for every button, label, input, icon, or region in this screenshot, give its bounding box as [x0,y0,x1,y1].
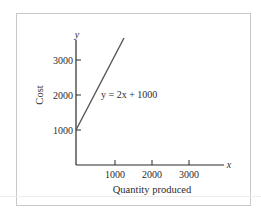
equation-annotation: y = 2x + 1000 [101,89,157,100]
y-tick-label-2000: 2000 [53,90,73,101]
chart-canvas: 1000 2000 3000 1000 2000 3000 y x Quanti… [0,0,261,220]
y-axis-variable: y [74,29,80,40]
x-tick-label-3000: 3000 [179,169,199,180]
x-tick-label-2000: 2000 [142,169,162,180]
x-tick-label-1000: 1000 [105,169,125,180]
series-line-y-2x-1000 [76,38,124,130]
y-tick-label-3000: 3000 [53,55,73,66]
x-axis-title: Quantity produced [113,184,192,195]
x-axis-variable: x [226,159,232,170]
y-axis-title: Cost [34,85,45,104]
y-tick-label-1000: 1000 [53,125,73,136]
